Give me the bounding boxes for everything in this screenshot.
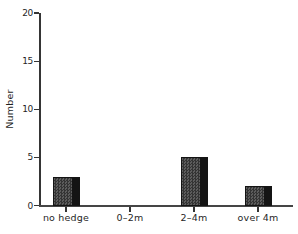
y-tick-label: 20 xyxy=(9,8,33,18)
bar xyxy=(181,157,208,205)
bar-shade xyxy=(200,158,206,204)
x-tick-label: 2–4m xyxy=(162,212,226,223)
x-tick-label: no hedge xyxy=(34,212,98,223)
bar-shade xyxy=(264,187,270,204)
y-tick-label: 10 xyxy=(9,104,33,114)
y-tick xyxy=(34,61,39,62)
x-tick-label: over 4m xyxy=(226,212,290,223)
y-tick-label: 5 xyxy=(9,152,33,162)
bar xyxy=(245,186,272,205)
plot-area: Number 05101520no hedge0–2m2–4mover 4m xyxy=(0,0,298,234)
bar xyxy=(53,177,80,206)
y-tick-label: 0 xyxy=(9,201,33,211)
y-tick-label: 15 xyxy=(9,56,33,66)
bar-shade xyxy=(72,178,78,205)
y-tick xyxy=(34,12,39,13)
bar-chart-figure: Number 05101520no hedge0–2m2–4mover 4m xyxy=(0,0,298,234)
y-tick xyxy=(34,157,39,158)
y-tick xyxy=(34,205,39,206)
x-tick-label: 0–2m xyxy=(98,212,162,223)
y-axis-line xyxy=(39,13,41,207)
y-tick xyxy=(34,109,39,110)
